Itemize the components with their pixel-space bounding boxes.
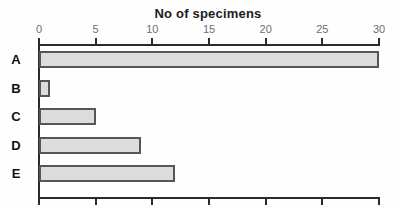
x-tick-label: 15 <box>203 23 215 35</box>
x-tick-top <box>321 38 323 44</box>
x-tick-label: 20 <box>260 23 272 35</box>
category-label-D: D <box>2 138 30 153</box>
category-label-E: E <box>2 166 30 181</box>
bar-C <box>39 108 96 125</box>
x-tick-top <box>151 38 153 44</box>
chart-title: No of specimens <box>38 6 378 21</box>
x-tick-bottom <box>151 199 153 205</box>
bar-B <box>39 80 50 97</box>
category-label-B: B <box>2 81 30 96</box>
x-tick-top <box>208 38 210 44</box>
x-tick-bottom <box>378 199 380 205</box>
x-tick-bottom <box>208 199 210 205</box>
bar-E <box>39 165 175 182</box>
x-tick-bottom <box>265 199 267 205</box>
bar-D <box>39 137 141 154</box>
category-label-C: C <box>2 109 30 124</box>
x-tick-label: 0 <box>36 23 42 35</box>
x-tick-label: 5 <box>93 23 99 35</box>
top-axis-line <box>38 44 380 46</box>
x-tick-bottom <box>321 199 323 205</box>
x-tick-bottom <box>95 199 97 205</box>
x-tick-label: 30 <box>373 23 385 35</box>
x-tick-bottom <box>38 199 40 205</box>
x-tick-top <box>378 38 380 44</box>
bar-A <box>39 51 379 68</box>
x-tick-top <box>265 38 267 44</box>
x-tick-label: 10 <box>146 23 158 35</box>
x-tick-label: 25 <box>316 23 328 35</box>
category-label-A: A <box>2 52 30 67</box>
x-tick-top <box>38 38 40 44</box>
x-tick-top <box>95 38 97 44</box>
bar-chart: No of specimens 051015202530 ABCDE <box>0 0 399 210</box>
